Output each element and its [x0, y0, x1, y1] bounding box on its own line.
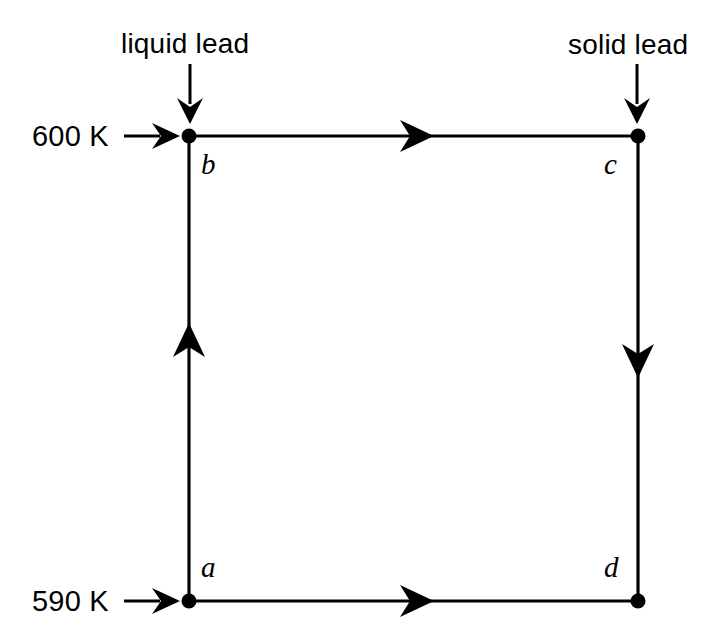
phase-label-liquid-lead: liquid lead: [121, 30, 249, 58]
vertex-label-b: b: [201, 150, 216, 179]
cycle-edges: [189, 136, 638, 601]
edge-direction-arrowheads: [173, 120, 654, 617]
vertex-dot-d: [631, 594, 646, 609]
temperature-label-590k: 590 K: [32, 587, 109, 616]
temperature-label-600k: 600 K: [32, 122, 109, 151]
phase-label-arrows: [177, 64, 650, 124]
figure-canvas: liquid lead solid lead 600 K 590 K b c a…: [0, 0, 724, 643]
vertex-label-a: a: [201, 553, 216, 582]
vertex-label-c: c: [604, 150, 617, 179]
cycle-diagram-svg: [0, 0, 724, 643]
vertex-dot-b: [182, 129, 197, 144]
figure-caption-remnant: [0, 636, 724, 643]
temperature-label-arrows: [124, 123, 180, 614]
phase-label-solid-lead: solid lead: [568, 31, 688, 59]
cycle-vertex-dots: [182, 129, 646, 609]
vertex-label-d: d: [604, 553, 619, 582]
vertex-dot-a: [182, 594, 197, 609]
vertex-dot-c: [631, 129, 646, 144]
